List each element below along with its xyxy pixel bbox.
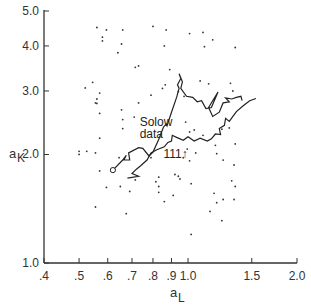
data-point bbox=[163, 201, 165, 203]
data-point bbox=[232, 90, 234, 92]
x-tick-label: 1.5 bbox=[243, 269, 260, 283]
data-point bbox=[138, 102, 140, 104]
data-point bbox=[190, 183, 192, 185]
data-point bbox=[158, 191, 160, 193]
data-point bbox=[118, 157, 120, 159]
data-point bbox=[106, 29, 108, 31]
x-tick-label: 2.0 bbox=[289, 269, 306, 283]
data-point bbox=[92, 81, 94, 83]
data-point bbox=[204, 46, 206, 48]
plot-area bbox=[78, 26, 256, 236]
data-point bbox=[233, 199, 235, 201]
data-point bbox=[158, 186, 160, 188]
data-point bbox=[96, 98, 98, 100]
x-axis-title: a L bbox=[170, 285, 185, 305]
x-tick-label: .8 bbox=[148, 269, 158, 283]
data-point bbox=[172, 194, 174, 196]
data-point bbox=[134, 179, 136, 181]
data-point bbox=[209, 211, 211, 213]
y-tick-label: 3.0 bbox=[22, 84, 39, 98]
annotation-label: data bbox=[140, 127, 164, 141]
data-point bbox=[212, 39, 214, 41]
data-point bbox=[150, 94, 152, 96]
data-point bbox=[158, 176, 160, 178]
data-point bbox=[216, 153, 218, 155]
data-point bbox=[162, 87, 164, 89]
data-point bbox=[179, 178, 181, 180]
data-point bbox=[230, 82, 232, 84]
data-point bbox=[150, 157, 152, 159]
annotation-label: 111↑ bbox=[163, 147, 187, 161]
data-point bbox=[134, 66, 136, 68]
data-point bbox=[208, 83, 210, 85]
data-point bbox=[121, 109, 123, 111]
data-point bbox=[231, 180, 233, 182]
data-point bbox=[222, 199, 224, 201]
y-axis-title-base: a bbox=[9, 146, 17, 161]
y-tick-label: 1.0 bbox=[22, 256, 39, 270]
data-point bbox=[213, 192, 215, 194]
data-point bbox=[99, 112, 101, 114]
data-point bbox=[221, 220, 223, 222]
data-point bbox=[233, 164, 235, 166]
data-point bbox=[189, 33, 191, 35]
data-point bbox=[78, 150, 80, 152]
x-axis-title-base: a bbox=[170, 285, 178, 300]
y-axis-ticks: 1.02.03.04.05.0 bbox=[22, 4, 49, 270]
data-point bbox=[228, 127, 230, 129]
data-point bbox=[185, 121, 187, 123]
x-tick-label: 1.0 bbox=[180, 269, 197, 283]
data-point bbox=[164, 84, 166, 86]
data-point bbox=[152, 26, 154, 28]
data-point bbox=[106, 187, 108, 189]
start-marker-circle bbox=[110, 167, 115, 172]
data-point bbox=[189, 131, 191, 133]
data-point bbox=[183, 95, 185, 97]
data-point bbox=[121, 43, 123, 45]
x-tick-label: .9 bbox=[166, 269, 176, 283]
data-point bbox=[99, 92, 101, 94]
data-point bbox=[189, 160, 191, 162]
data-point bbox=[84, 87, 86, 89]
data-point bbox=[214, 144, 216, 146]
data-point bbox=[99, 170, 101, 172]
data-point bbox=[169, 69, 171, 71]
data-point bbox=[165, 29, 167, 31]
data-point bbox=[234, 186, 236, 188]
data-point bbox=[195, 152, 197, 154]
data-point bbox=[177, 175, 179, 177]
y-tick-label: 5.0 bbox=[22, 4, 39, 18]
data-point bbox=[190, 234, 192, 236]
data-point bbox=[234, 143, 236, 145]
data-point bbox=[199, 80, 201, 82]
data-point bbox=[174, 174, 176, 176]
data-point bbox=[117, 52, 119, 54]
data-point bbox=[234, 47, 236, 49]
chart-canvas: .4.5.6.7.8.91.01.52.0 1.02.03.04.05.0 So… bbox=[0, 0, 311, 308]
data-point bbox=[95, 102, 97, 104]
data-point bbox=[155, 181, 157, 183]
x-tick-label: .4 bbox=[39, 269, 49, 283]
data-point bbox=[86, 150, 88, 152]
x-axis-title-subscript: L bbox=[178, 291, 185, 305]
data-point bbox=[129, 190, 131, 192]
data-point bbox=[122, 119, 124, 121]
data-point bbox=[221, 128, 223, 130]
data-point bbox=[125, 213, 127, 215]
x-tick-label: .7 bbox=[127, 269, 137, 283]
x-axis-ticks: .4.5.6.7.8.91.01.52.0 bbox=[39, 258, 306, 283]
data-point bbox=[122, 128, 124, 130]
data-point bbox=[138, 65, 140, 67]
data-point bbox=[133, 116, 135, 118]
y-axis-title-subscript: K bbox=[17, 151, 25, 165]
data-point bbox=[193, 129, 195, 131]
data-point bbox=[96, 27, 98, 29]
data-point bbox=[102, 40, 104, 42]
data-point bbox=[102, 36, 104, 38]
data-point bbox=[163, 45, 165, 47]
data-point bbox=[122, 29, 124, 31]
y-tick-label: 4.0 bbox=[22, 39, 39, 53]
data-point bbox=[99, 137, 101, 139]
data-point bbox=[202, 32, 204, 34]
x-tick-label: .5 bbox=[74, 269, 84, 283]
